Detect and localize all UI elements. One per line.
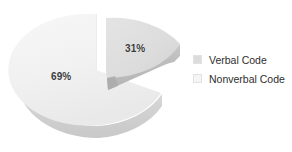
pie-chart: 31% 69% Verbal Code Nonverbal Code bbox=[0, 0, 292, 152]
legend-label-verbal-code: Verbal Code bbox=[209, 54, 267, 66]
pie-svg bbox=[0, 0, 196, 152]
legend-swatch-icon-nonverbal-code bbox=[193, 74, 202, 83]
legend-item-nonverbal-code[interactable]: Nonverbal Code bbox=[193, 71, 292, 86]
legend-label-nonverbal-code: Nonverbal Code bbox=[209, 73, 285, 85]
slice-label-nonverbal: 69% bbox=[51, 71, 71, 82]
legend-swatch-icon-verbal-code bbox=[193, 55, 202, 64]
legend-item-verbal-code[interactable]: Verbal Code bbox=[193, 52, 292, 67]
pie-plot-area: 31% 69% bbox=[0, 0, 196, 152]
chart-legend: Verbal Code Nonverbal Code bbox=[193, 52, 292, 90]
slice-label-verbal: 31% bbox=[125, 43, 145, 54]
